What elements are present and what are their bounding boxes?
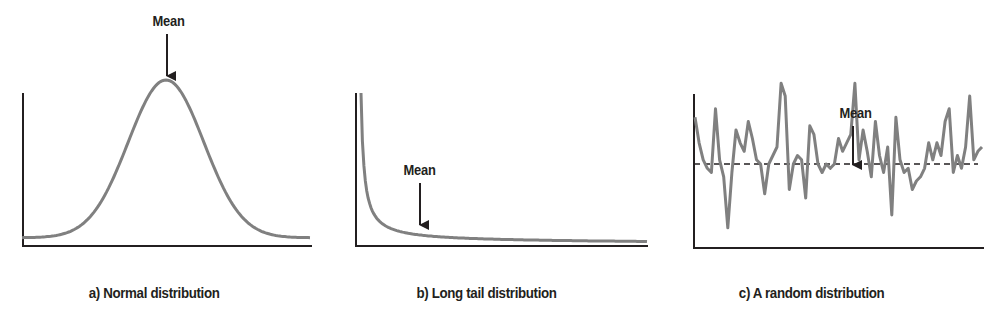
mean-label-c: Mean xyxy=(840,104,872,121)
random-series-line xyxy=(695,83,982,228)
distribution-figure: Mean Mean Mean a) Normal distribution b)… xyxy=(0,0,1001,323)
mean-label-b: Mean xyxy=(404,161,436,178)
panel-a xyxy=(22,34,312,247)
caption-b: b) Long tail distribution xyxy=(416,284,556,302)
chart-canvas xyxy=(0,0,1001,323)
mean-label-a: Mean xyxy=(153,12,185,29)
caption-a: a) Normal distribution xyxy=(89,284,220,302)
panel-c xyxy=(693,83,984,249)
normal-curve xyxy=(22,80,310,238)
caption-c: c) A random distribution xyxy=(739,284,885,302)
panel-b xyxy=(355,93,648,247)
